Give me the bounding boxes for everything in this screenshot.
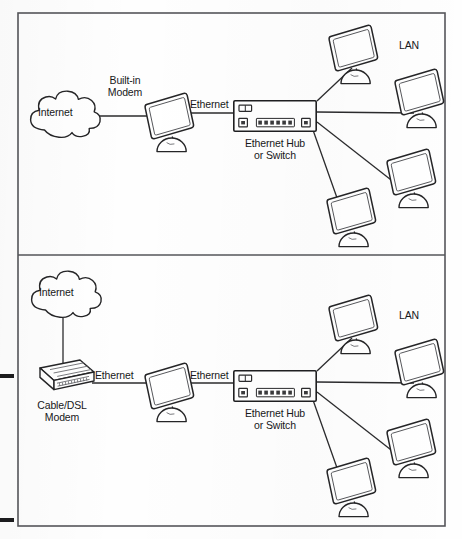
lan-computer-2 (395, 69, 443, 127)
panel-top (31, 25, 444, 246)
hub-label-bottom-line2: or Switch (229, 420, 321, 432)
link-hub-to-lan-2 (317, 382, 414, 383)
lan-label-bottom: LAN (399, 310, 419, 322)
page-edge-marks (0, 374, 14, 522)
lan-computer-3 (387, 149, 435, 207)
lan-computer-1 (329, 25, 377, 83)
lan-computer-1 (329, 295, 377, 353)
ethernet-label-bottom-left: Ethernet (95, 370, 134, 382)
ethernet-label-top-right: Ethernet (190, 99, 229, 111)
ethernet-hub (234, 101, 316, 131)
gateway-computer (145, 93, 193, 151)
left-edge-tick-upper (0, 374, 14, 378)
internet-label-bottom: Internet (39, 287, 73, 299)
network-diagram-figure: Internet Built-in Modem Ethernet Etherne… (0, 0, 462, 539)
link-hub-to-lan-2 (317, 112, 414, 113)
lan-computer-3 (387, 419, 435, 477)
figure-frame (18, 13, 445, 526)
ethernet-hub (234, 371, 316, 401)
cable-dsl-modem-label-line1: Cable/DSL (24, 400, 100, 412)
internet-label-top: Internet (38, 107, 72, 119)
lan-computer-4 (327, 458, 375, 516)
lan-computer-2 (395, 339, 443, 397)
hub-label-top-line1: Ethernet Hub (229, 138, 321, 150)
cable-dsl-modem (40, 360, 94, 390)
lan-computer-4 (327, 188, 375, 246)
built-in-modem-label-line1: Built-in (97, 75, 153, 87)
hub-label-top-line2: or Switch (229, 150, 321, 162)
lan-label-top: LAN (399, 40, 419, 52)
left-edge-tick-lower (0, 518, 14, 522)
hub-label-bottom-line1: Ethernet Hub (229, 408, 321, 420)
diagram-canvas (0, 0, 462, 539)
cable-dsl-modem-label-line2: Modem (24, 412, 100, 424)
panel-bottom (32, 271, 444, 516)
built-in-modem-label-line2: Modem (97, 87, 153, 99)
gateway-computer (145, 363, 193, 421)
ethernet-label-bottom-right: Ethernet (190, 370, 229, 382)
